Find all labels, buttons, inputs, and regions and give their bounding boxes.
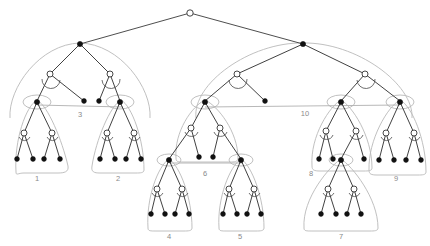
cluster-label-10: 10 bbox=[301, 109, 309, 118]
leaf-node bbox=[58, 157, 63, 162]
left-main-node bbox=[77, 41, 82, 46]
arc-c4-l bbox=[152, 193, 163, 197]
root-node bbox=[187, 10, 193, 16]
tree-diagram-svg: 1 2 3 4 5 6 7 8 9 10 bbox=[0, 0, 430, 246]
node-hollow bbox=[131, 130, 137, 136]
arc-c5-r bbox=[249, 193, 260, 197]
leaf-node bbox=[404, 158, 409, 163]
left-inner-node-a bbox=[47, 71, 53, 77]
leaf-node bbox=[31, 157, 36, 162]
blob-cluster-9 bbox=[369, 100, 426, 175]
edge-c7-lr bbox=[328, 189, 336, 214]
edge-c9-lr bbox=[386, 133, 394, 160]
edge-linnera-c1 bbox=[37, 74, 50, 101]
connector-line-3 bbox=[37, 105, 123, 107]
edge-c8-lr bbox=[326, 131, 333, 159]
arc-c2-l bbox=[102, 137, 113, 141]
leaf-node bbox=[245, 212, 250, 217]
leaf-node bbox=[392, 158, 397, 163]
node-hollow bbox=[104, 130, 110, 136]
cluster-5-top-node bbox=[238, 157, 243, 162]
node-hollow bbox=[154, 186, 160, 192]
cluster-label-5: 5 bbox=[238, 232, 242, 241]
leaf-node bbox=[42, 157, 47, 162]
edge-c1-lr bbox=[24, 133, 33, 159]
subtree-cluster-9 bbox=[377, 102, 424, 162]
leaf-node bbox=[15, 157, 20, 162]
connector-line-10 bbox=[205, 105, 400, 107]
subtree-cluster-6 bbox=[169, 102, 241, 159]
leaf-node bbox=[317, 157, 322, 162]
blob-cluster-1 bbox=[16, 100, 68, 174]
node-hollow bbox=[383, 130, 389, 136]
leaf-node bbox=[319, 212, 324, 217]
subtree-cluster-1 bbox=[15, 102, 63, 161]
cluster-2-top-node bbox=[117, 99, 122, 104]
node-hollow bbox=[49, 130, 55, 136]
node-hollow bbox=[351, 186, 357, 192]
leaf-node bbox=[98, 157, 103, 162]
cluster-label-group: 1 2 3 4 5 6 7 8 9 10 bbox=[35, 109, 398, 241]
cluster-4-top-node bbox=[166, 157, 171, 162]
cluster-1-top-node bbox=[34, 99, 39, 104]
edge-c7-ll bbox=[321, 189, 328, 214]
node-hollow bbox=[188, 125, 194, 131]
leaf-node bbox=[345, 212, 350, 217]
leaf-node bbox=[362, 157, 367, 162]
arc-linnera bbox=[42, 79, 60, 89]
cluster-8-top-node bbox=[338, 99, 343, 104]
edge-c9-ll bbox=[379, 133, 386, 160]
diagram-canvas: 1 2 3 4 5 6 7 8 9 10 bbox=[0, 0, 430, 246]
blob-cluster-4 bbox=[148, 159, 192, 231]
leaf-node bbox=[359, 212, 364, 217]
leaf-node bbox=[113, 157, 118, 162]
leaf-node bbox=[259, 212, 264, 217]
subtree-cluster-7 bbox=[319, 160, 364, 216]
cluster-label-2: 2 bbox=[116, 174, 120, 183]
edge-leftmain-inner-a bbox=[50, 44, 80, 74]
node-hollow bbox=[217, 125, 223, 131]
right-inner-node-a bbox=[234, 71, 240, 77]
right-main-node bbox=[300, 41, 305, 46]
arc-c9-r bbox=[409, 137, 420, 141]
blob-cluster-3 bbox=[10, 43, 150, 118]
leaf-node bbox=[163, 212, 168, 217]
node-hollow bbox=[353, 128, 359, 134]
cluster-label-3: 3 bbox=[78, 110, 82, 119]
cluster-7-top-node bbox=[338, 157, 343, 162]
edge-c6-r bbox=[205, 102, 220, 128]
cluster-label-6: 6 bbox=[203, 169, 207, 178]
cluster-label-1: 1 bbox=[35, 174, 39, 183]
edge-c4-lr bbox=[157, 189, 165, 214]
node-hollow bbox=[179, 186, 185, 192]
edge-leftmain-inner-b bbox=[80, 44, 110, 74]
blob-cluster-7 bbox=[304, 159, 378, 231]
leaf-node bbox=[187, 212, 192, 217]
right-inner-node-b bbox=[362, 71, 368, 77]
edge-c4-rl bbox=[175, 189, 182, 214]
edge-c2-rl bbox=[126, 133, 134, 159]
leaf-node bbox=[235, 212, 240, 217]
edge-c5-ll bbox=[223, 189, 229, 214]
edge-rinnera-leaf bbox=[237, 74, 265, 101]
edge-c1-ll bbox=[17, 133, 24, 159]
cluster-label-4: 4 bbox=[167, 232, 171, 241]
leaf-node bbox=[334, 212, 339, 217]
arc-c7-l bbox=[323, 193, 334, 197]
edge-root-right-main bbox=[190, 13, 303, 44]
leaf-node bbox=[377, 158, 382, 163]
edge-c9-l bbox=[386, 102, 400, 133]
leaf-node bbox=[197, 155, 202, 160]
leaf-node bbox=[419, 158, 424, 163]
edge-c7-rr bbox=[354, 189, 361, 214]
edge-c5-rl bbox=[247, 189, 254, 214]
subtree-cluster-8 bbox=[317, 102, 367, 161]
arc-c4-r bbox=[177, 193, 188, 197]
subtree-cluster-5 bbox=[221, 160, 264, 216]
cluster-6-top-node bbox=[202, 99, 207, 104]
edge-c2-ll bbox=[100, 133, 107, 159]
node-hollow bbox=[325, 186, 331, 192]
node-hollow bbox=[21, 130, 27, 136]
blob-cluster-2 bbox=[92, 100, 144, 173]
subtree-cluster-2 bbox=[98, 102, 144, 161]
